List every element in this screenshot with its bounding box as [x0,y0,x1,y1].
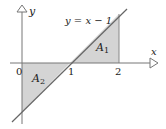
x-axis-label: x [151,46,157,57]
equation-label: y = x − 1 [64,15,112,26]
y-axis-label: y [28,5,36,18]
tick-label-0: 0 [16,66,22,77]
tick-label-1: 1 [68,66,74,77]
tick-label-2: 2 [115,66,121,77]
area-diagram: y x y = x − 1 0 1 2 A1 A2 [0,0,166,129]
y-axis-arrow-icon [17,5,27,12]
x-axis-arrow-icon [150,58,158,68]
